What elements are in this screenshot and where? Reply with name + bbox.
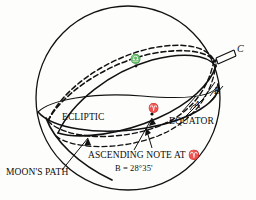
descending-node-point [135, 65, 138, 68]
angle-b-label: B [214, 86, 220, 96]
ascending-node-label: ASCENDING NOTE AT ♈ [88, 151, 200, 161]
ecliptic-label: ECLIPTIC [62, 113, 105, 123]
upper-intersection-point [213, 59, 217, 63]
libra-symbol-icon: ♎ [130, 55, 141, 64]
b-angle-value-label: B = 28°35' [115, 164, 153, 173]
equator-label: EQUATOR [169, 117, 214, 127]
aries-symbol-icon: ♈ [148, 104, 159, 113]
moons-path-label: MOON'S PATH [6, 168, 68, 178]
angle-c-marker [216, 50, 236, 64]
angle-a-label: A [194, 100, 200, 110]
astronomy-diagram: ECLIPTIC EQUATOR MOON'S PATH ASCENDING N… [0, 0, 256, 200]
angle-c-label: C [237, 44, 244, 54]
